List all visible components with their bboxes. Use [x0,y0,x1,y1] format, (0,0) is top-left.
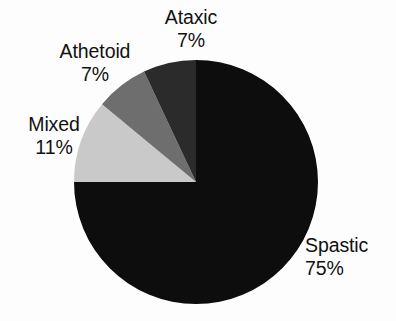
pie-label-athetoid-name: Athetoid [37,40,153,63]
pie-label-spastic: Spastic 75% [305,234,396,280]
pie-label-ataxic-name: Ataxic [139,6,243,29]
pie-label-ataxic: Ataxic 7% [139,6,243,52]
pie-label-spastic-value: 75% [305,257,396,280]
pie-chart: Ataxic 7% Athetoid 7% Mixed 11% Spastic … [0,0,396,321]
pie-slice-group [74,60,318,304]
pie-label-ataxic-value: 7% [139,29,243,52]
pie-label-spastic-name: Spastic [305,234,396,257]
pie-label-athetoid: Athetoid 7% [37,40,153,86]
pie-label-mixed: Mixed 11% [6,113,102,159]
pie-label-mixed-value: 11% [6,136,102,159]
pie-label-athetoid-value: 7% [37,63,153,86]
pie-label-mixed-name: Mixed [6,113,102,136]
